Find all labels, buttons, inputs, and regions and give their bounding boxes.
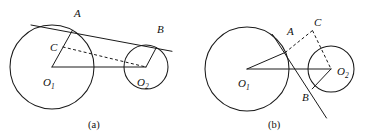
panel-a-label-O2-subscript: 2 bbox=[145, 82, 149, 91]
geometry-figure-container: A B C O 1 O 2 (a) A B C O 1 O 2 bbox=[0, 0, 368, 138]
panel-a-label-B: B bbox=[157, 23, 164, 35]
panel-b-label-A: A bbox=[286, 25, 294, 37]
panel-a-radius-O2-B bbox=[146, 48, 156, 67]
panel-a-label-O2: O bbox=[137, 76, 145, 88]
panel-b-label-O2: O bbox=[337, 65, 345, 77]
panel-b-caption: (b) bbox=[268, 119, 281, 131]
panel-b-label-C: C bbox=[314, 16, 322, 28]
panel-b-group: A B C O 1 O 2 (b) bbox=[205, 16, 354, 131]
panel-a-label-O1: O bbox=[43, 76, 51, 88]
panel-b-tangent-line-AB bbox=[273, 35, 327, 119]
panel-a-label-A: A bbox=[73, 7, 81, 19]
panel-a-label-C: C bbox=[50, 41, 58, 53]
panel-b-label-B: B bbox=[302, 91, 309, 103]
panel-a-caption: (a) bbox=[88, 119, 100, 131]
panel-b-label-O2-subscript: 2 bbox=[345, 71, 349, 80]
panel-b-label-O1-subscript: 1 bbox=[246, 83, 250, 92]
panel-a-label-O1-subscript: 1 bbox=[51, 82, 55, 91]
panel-b-radius-O1-A bbox=[247, 52, 285, 69]
panel-b-dashed-segment-C-O2 bbox=[313, 31, 332, 70]
panel-b-label-O1: O bbox=[238, 77, 246, 89]
panel-b-radius-O2-B bbox=[312, 69, 331, 89]
geometry-figure-svg: A B C O 1 O 2 (a) A B C O 1 O 2 bbox=[0, 0, 368, 138]
panel-a-parallel-segment-C-O2 bbox=[63, 47, 146, 67]
panel-a-group: A B C O 1 O 2 (a) bbox=[10, 7, 172, 131]
